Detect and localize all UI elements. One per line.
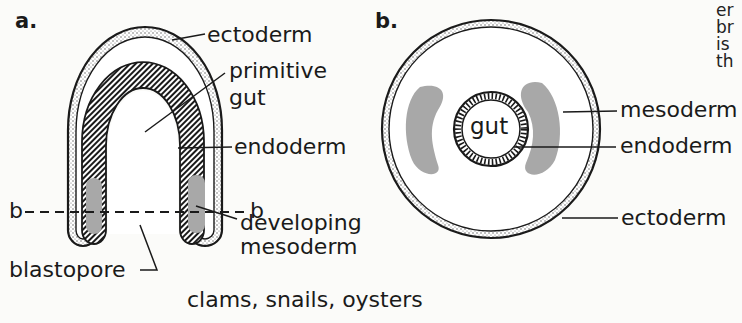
label-developing-mesoderm-line2: mesoderm xyxy=(240,235,357,259)
gastrula-diagram xyxy=(25,27,248,270)
label-blastopore: blastopore xyxy=(9,258,126,282)
label-section-b-left: b xyxy=(9,199,23,223)
label-primitive-gut-line2: gut xyxy=(229,86,266,110)
figure-caption: clams, snails, oysters xyxy=(187,287,423,312)
label-ectoderm-a: ectoderm xyxy=(207,23,312,47)
label-developing-mesoderm-line1: developing xyxy=(240,211,362,235)
label-mesoderm-b: mesoderm xyxy=(620,98,737,122)
side-text-line4: th xyxy=(716,53,733,70)
label-gut-b: gut xyxy=(470,114,508,138)
panel-b-letter: b. xyxy=(375,9,398,33)
label-ectoderm-b: ectoderm xyxy=(621,206,726,230)
panel-a-letter: a. xyxy=(15,9,37,33)
label-primitive-gut-line1: primitive xyxy=(229,59,327,83)
mesoderm-right-a xyxy=(188,175,205,233)
label-endoderm-a: endoderm xyxy=(234,135,347,159)
mesoderm-left-a xyxy=(86,178,102,234)
label-endoderm-b: endoderm xyxy=(620,134,733,158)
